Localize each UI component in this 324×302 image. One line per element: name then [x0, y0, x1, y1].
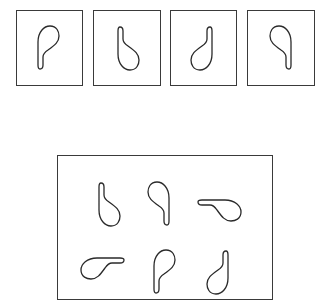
keyhole-shape-icon — [17, 18, 77, 78]
keyhole-shape-icon — [78, 174, 138, 234]
keyhole-shape-icon — [133, 242, 193, 302]
keyhole-shape-icon — [189, 179, 249, 239]
keyhole-shape-icon — [189, 242, 249, 302]
keyhole-shape-icon — [130, 174, 190, 234]
keyhole-shape-icon — [73, 237, 133, 297]
keyhole-shape-icon — [97, 18, 157, 78]
keyhole-shape-icon — [173, 18, 233, 78]
keyhole-shape-icon — [252, 18, 312, 78]
